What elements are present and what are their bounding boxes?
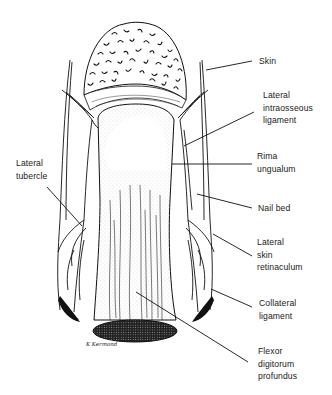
leader-skin [206, 61, 252, 70]
nail-anatomy-illustration: K Kermond [0, 0, 332, 395]
label-lateral-tubercle: Lateral tubercle [16, 157, 47, 182]
label-flexor-digitorum-profundus: Flexor digitorum profundus [258, 345, 297, 383]
label-collateral-ligament: Collateral ligament [259, 297, 296, 322]
flexor-digitorum-profundus-tendon [93, 104, 177, 342]
leader-lateral-tubercle [47, 187, 82, 226]
leader-lateral-intraosseous-ligament [184, 112, 254, 146]
artist-signature: K Kermond [85, 341, 118, 347]
leader-collateral-ligament [211, 289, 252, 307]
label-nail-bed: Nail bed [258, 202, 290, 215]
tendon-cut-end [93, 320, 177, 342]
label-rima-ungualum: Rima ungualum [257, 150, 296, 175]
label-lateral-intraosseous-ligament: Lateral intraosseous ligament [263, 89, 313, 127]
label-lateral-skin-retinaculum: Lateral skin retinaculum [257, 236, 303, 274]
leader-lateral-skin-retinaculum [213, 234, 252, 256]
leader-nail-bed [197, 194, 252, 208]
label-skin: Skin [259, 55, 276, 68]
